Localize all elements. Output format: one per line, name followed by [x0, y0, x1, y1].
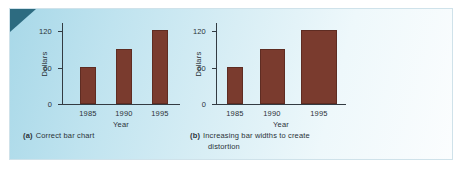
caption-b-tag: (b): [190, 131, 200, 140]
chart-a-ytick-60-label: 60: [43, 64, 52, 73]
chart-a-xlabel: Year: [86, 120, 156, 129]
caption-a: (a)Correct bar chart: [23, 131, 173, 142]
chart-b-xtick-1985: 1985: [226, 109, 244, 118]
chart-a-ytick-0-label: 0: [48, 100, 52, 109]
chart-a-plot-area: Dollars 0 60 120 1985 1990: [62, 23, 180, 105]
chart-b-y-axis: [216, 23, 217, 105]
chart-a-x-axis: [62, 104, 180, 105]
chart-b-xtick-1990: 1990: [263, 109, 281, 118]
chart-b-xtick-1995: 1995: [310, 109, 328, 118]
chart-b-ytick-120-mark: 120: [212, 31, 217, 32]
chart-a-ytick-60-mark: 60: [58, 68, 63, 69]
chart-a-ytick-120-label: 120: [39, 27, 52, 36]
chart-a-ytick-120-mark: 120: [58, 31, 63, 32]
chart-a-xtick-1995: 1995: [151, 109, 169, 118]
chart-a-xtick-1990: 1990: [115, 109, 133, 118]
figure-panel: Dollars 0 60 120 1985 1990: [9, 8, 453, 160]
chart-a-xtick-1985: 1985: [79, 109, 97, 118]
chart-b-ytick-0-mark: 0: [212, 104, 217, 105]
chart-b-ytick-120-label: 120: [193, 27, 206, 36]
caption-b-text: Increasing bar widths to create: [203, 131, 310, 140]
chart-b-plot-area: Dollars 0 60 120 1985 1990 1995: [216, 23, 346, 105]
caption-b-text-line2: distortion: [208, 142, 345, 153]
chart-a-bar-1985: [80, 67, 96, 104]
chart-b-bar-1995: [301, 30, 337, 104]
chart-b-xlabel: Year: [246, 120, 316, 129]
caption-a-tag: (a): [23, 131, 33, 140]
chart-b-x-axis: [216, 104, 346, 105]
chart-a-bar-1990: [116, 49, 132, 104]
chart-b-ytick-0-label: 0: [202, 100, 206, 109]
chart-b-bar-1985: [227, 67, 243, 104]
chart-b-ytick-60-mark: 60: [212, 68, 217, 69]
chart-b-bar-1990: [260, 49, 285, 104]
chart-a-ytick-0-mark: 0: [58, 104, 63, 105]
chart-b-ytick-60-label: 60: [197, 64, 206, 73]
caption-b: (b)Increasing bar widths to create disto…: [190, 131, 345, 152]
chart-a-bar-1995: [152, 30, 168, 104]
figure-screenshot: Dollars 0 60 120 1985 1990: [0, 0, 462, 175]
caption-a-text: Correct bar chart: [36, 131, 95, 140]
chart-a-y-axis: [62, 23, 63, 105]
